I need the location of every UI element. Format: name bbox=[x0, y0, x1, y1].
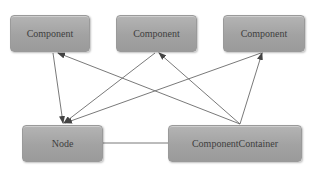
component-box-1[interactable]: Component bbox=[10, 15, 90, 52]
component-label: Component bbox=[27, 28, 74, 39]
component-container-box[interactable]: ComponentContainer bbox=[168, 125, 302, 162]
component-box-2[interactable]: Component bbox=[116, 15, 197, 52]
edge-container-to-component3 bbox=[240, 53, 262, 124]
edge-component3-to-node bbox=[65, 53, 261, 123]
component-label: Component bbox=[133, 28, 180, 39]
component-label: Component bbox=[241, 28, 288, 39]
edge-component2-to-node bbox=[64, 53, 155, 123]
node-box[interactable]: Node bbox=[22, 125, 103, 162]
node-label: Node bbox=[52, 138, 74, 149]
edge-component1-to-node bbox=[53, 53, 63, 123]
component-container-label: ComponentContainer bbox=[192, 138, 278, 149]
edge-container-to-component1 bbox=[58, 53, 240, 124]
edge-container-to-component2 bbox=[159, 53, 240, 124]
class-diagram: Component Component Component Node Compo… bbox=[0, 0, 317, 173]
component-box-3[interactable]: Component bbox=[223, 15, 305, 52]
